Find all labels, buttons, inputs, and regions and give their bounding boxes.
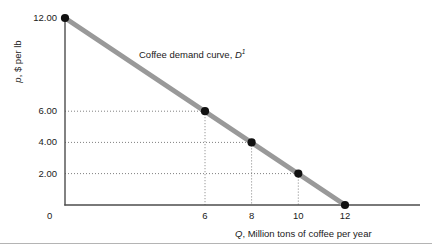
y-tick-label-6: 6.00	[5, 106, 57, 116]
x-tick-label-8: 8	[237, 211, 267, 221]
data-point-8-4	[248, 138, 256, 146]
origin-label: 0	[47, 211, 52, 221]
x-tick-label-12: 12	[330, 211, 360, 221]
curve-superscript: 1	[242, 48, 246, 55]
curve-annotation-text: Coffee demand curve,	[139, 49, 235, 60]
data-point-10-2	[294, 170, 302, 178]
bottom-divider	[0, 243, 432, 244]
curve-symbol: D	[235, 49, 242, 60]
demand-curve-chart: 12.00 6.00 4.00 2.00 0 6 8 10 12 p, $ pe…	[0, 0, 432, 249]
y-tick-label-2: 2.00	[5, 169, 57, 179]
x-tick-label-10: 10	[283, 211, 313, 221]
y-tick-label-4: 4.00	[5, 137, 57, 147]
data-point-0-12	[61, 14, 69, 22]
data-point-12-0	[341, 201, 349, 209]
data-point-6-6	[201, 107, 209, 115]
guideline-group	[65, 111, 298, 205]
x-axis-unit: , Million tons of coffee per year	[242, 228, 371, 239]
curve-annotation: Coffee demand curve, D1	[139, 48, 245, 60]
y-axis-title: p, $ per lb	[12, 26, 23, 98]
y-axis-variable: p	[12, 77, 23, 82]
y-tick-label-12: 12.00	[5, 13, 57, 23]
x-tick-label-6: 6	[190, 211, 220, 221]
x-axis-title: Q, Million tons of coffee per year	[235, 228, 372, 239]
y-axis-unit: , $ per lb	[12, 40, 23, 77]
